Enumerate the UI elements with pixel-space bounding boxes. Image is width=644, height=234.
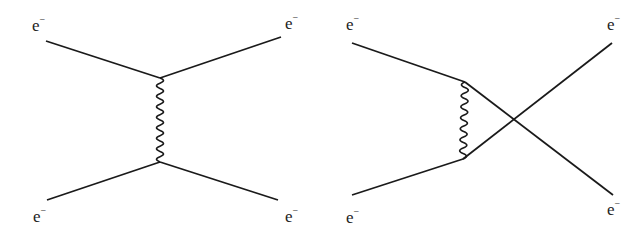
- electron-label-left-in-top: e−: [32, 16, 45, 34]
- electron-symbol: e: [32, 16, 40, 35]
- electron-symbol: e: [607, 15, 615, 34]
- electron-label-left-out-bottom: e−: [285, 207, 298, 225]
- incoming-bottom-fermion-line: [352, 159, 463, 195]
- electron-symbol: e: [346, 15, 354, 34]
- negative-charge-superscript: −: [354, 13, 360, 24]
- negative-charge-superscript: −: [615, 198, 621, 209]
- electron-symbol: e: [285, 14, 293, 33]
- crossed-outgoing-up-fermion-line: [463, 43, 612, 159]
- electron-symbol: e: [346, 208, 354, 227]
- negative-charge-superscript: −: [615, 13, 621, 24]
- electron-symbol: e: [33, 207, 41, 226]
- t-channel-diagram: [46, 37, 281, 200]
- negative-charge-superscript: −: [40, 14, 46, 25]
- feynman-diagram-canvas: [0, 0, 644, 234]
- negative-charge-superscript: −: [354, 206, 360, 217]
- electron-symbol: e: [285, 207, 293, 226]
- electron-label-left-in-bottom: e−: [33, 207, 46, 225]
- electron-label-right-in-top: e−: [346, 15, 359, 33]
- negative-charge-superscript: −: [293, 205, 299, 216]
- photon-propagator-wavy-line: [460, 82, 469, 159]
- photon-propagator-wavy-line: [157, 78, 164, 162]
- u-channel-diagram: [352, 43, 613, 195]
- electron-symbol: e: [607, 200, 615, 219]
- outgoing-top-fermion-line: [160, 37, 281, 78]
- electron-label-right-out-bottom: e−: [607, 200, 620, 218]
- electron-label-right-out-top: e−: [607, 15, 620, 33]
- incoming-top-fermion-line: [352, 43, 465, 82]
- electron-label-left-out-top: e−: [285, 14, 298, 32]
- incoming-bottom-fermion-line: [47, 162, 160, 200]
- electron-label-right-in-bottom: e−: [346, 208, 359, 226]
- negative-charge-superscript: −: [293, 12, 299, 23]
- negative-charge-superscript: −: [41, 205, 47, 216]
